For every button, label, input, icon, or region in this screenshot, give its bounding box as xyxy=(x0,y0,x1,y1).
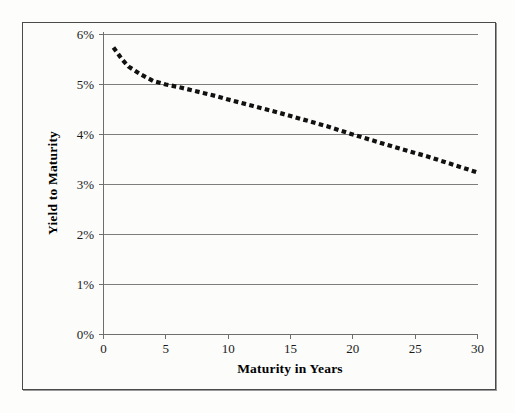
y-tick-label-3pct: 3% xyxy=(77,177,95,192)
x-axis-title: Maturity in Years xyxy=(237,361,343,376)
y-tick-label-5pct: 5% xyxy=(77,77,95,92)
x-tick-label-5: 5 xyxy=(163,341,170,356)
y-axis-title: Yield to Maturity xyxy=(45,131,60,235)
chart-screenshot: 6% 5% 4% 3% 2% 1% 0% 0 5 10 15 20 25 30 … xyxy=(0,0,515,413)
y-tick-label-6pct: 6% xyxy=(77,27,95,42)
axes-group xyxy=(104,32,478,335)
x-tick-label-30: 30 xyxy=(471,341,484,356)
y-tick-label-0pct: 0% xyxy=(77,327,95,342)
x-tick-label-0: 0 xyxy=(100,341,107,356)
plot-area: 6% 5% 4% 3% 2% 1% 0% 0 5 10 15 20 25 30 … xyxy=(0,0,515,413)
x-tick-label-10: 10 xyxy=(222,341,235,356)
x-tick-label-25: 25 xyxy=(409,341,422,356)
y-tick-label-1pct: 1% xyxy=(77,277,95,292)
y-tick-label-4pct: 4% xyxy=(77,127,95,142)
yield-curve-chart: 6% 5% 4% 3% 2% 1% 0% 0 5 10 15 20 25 30 … xyxy=(0,0,515,413)
x-tick-labels-group: 0 5 10 15 20 25 30 xyxy=(100,341,484,356)
x-tick-label-20: 20 xyxy=(346,341,359,356)
y-tick-marks-group xyxy=(99,35,104,335)
gridlines-group xyxy=(104,35,478,285)
yield-curve-series-line xyxy=(113,48,477,173)
x-tick-label-15: 15 xyxy=(284,341,297,356)
x-tick-marks-group xyxy=(104,335,478,340)
y-tick-labels-group: 6% 5% 4% 3% 2% 1% 0% xyxy=(77,27,95,342)
y-tick-label-2pct: 2% xyxy=(77,227,95,242)
